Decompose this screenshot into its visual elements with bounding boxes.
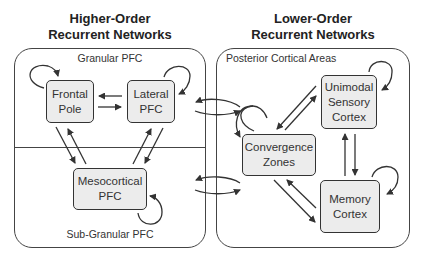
frontal-pole-label-1: Frontal: [52, 87, 88, 102]
unimodal-label-3: Cortex: [325, 110, 374, 125]
unimodal-sensory-cortex-node: Unimodal Sensory Cortex: [321, 75, 377, 129]
lateral-pfc-label-1: Lateral: [133, 87, 168, 102]
convergence-zones-node: Convergence Zones: [242, 134, 316, 176]
mesocortical-label-2: PFC: [78, 189, 143, 204]
frontal-pole-label-2: Pole: [52, 102, 88, 117]
convergence-label-1: Convergence: [245, 140, 313, 155]
memory-label-1: Memory: [329, 192, 371, 207]
self-loop-convergence: [236, 106, 253, 137]
unimodal-label-2: Sensory: [325, 95, 374, 110]
lateral-pfc-label-2: PFC: [133, 102, 168, 117]
mesocortical-pfc-node: Mesocortical PFC: [73, 168, 147, 210]
memory-label-2: Cortex: [329, 207, 371, 222]
mesocortical-label-1: Mesocortical: [78, 174, 143, 189]
unimodal-label-1: Unimodal: [325, 80, 374, 95]
frontal-pole-node: Frontal Pole: [46, 80, 94, 123]
memory-cortex-node: Memory Cortex: [320, 180, 380, 233]
convergence-label-2: Zones: [245, 155, 313, 170]
lateral-pfc-node: Lateral PFC: [127, 80, 175, 123]
